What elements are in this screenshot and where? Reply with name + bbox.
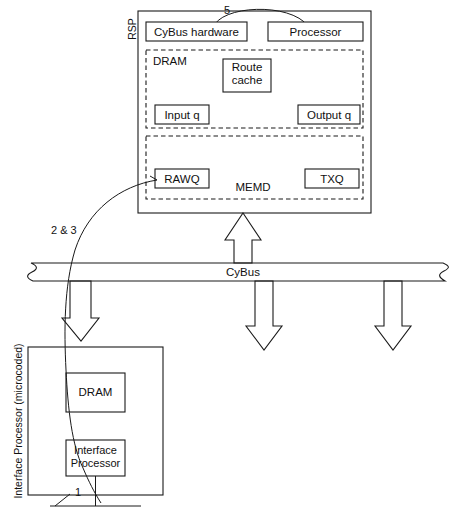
curve-label-2and3: 2 & 3 xyxy=(51,224,77,236)
input-q-label: Input q xyxy=(164,109,199,121)
dram-region-label: DRAM xyxy=(153,55,187,67)
arrow-down-center xyxy=(246,281,282,350)
rawq-label: RAWQ xyxy=(164,173,199,185)
diagram-canvas: RSP 5 CyBus hardware Processor DRAM Rout… xyxy=(0,0,469,520)
ip-processor-label-line1: Interface xyxy=(74,444,117,456)
processor-label: Processor xyxy=(290,26,342,38)
rsp-label: RSP xyxy=(126,18,138,40)
route-cache-label-line1: Route xyxy=(232,61,263,73)
arrow-up-cybus-to-memd xyxy=(225,213,261,263)
route-cache-label-line2: cache xyxy=(232,74,263,86)
txq-label: TXQ xyxy=(320,173,344,185)
ip-processor-label-line2: Processor xyxy=(71,457,121,469)
output-q-label: Output q xyxy=(307,109,351,121)
interface-processor-side-label: Interface Processor (microcoded) xyxy=(12,343,24,498)
block-diagram: RSP 5 CyBus hardware Processor DRAM Rout… xyxy=(0,0,469,520)
pin-1-label: 1 xyxy=(75,486,81,498)
memd-region-label: MEMD xyxy=(235,181,270,193)
cybus-hardware-label: CyBus hardware xyxy=(154,26,239,38)
ip-dram-label: DRAM xyxy=(79,386,113,398)
arrow-down-right xyxy=(375,281,411,350)
arc-label-5: 5 xyxy=(224,4,230,16)
cybus-label: CyBus xyxy=(226,266,260,278)
pin-1-leader xyxy=(55,494,70,506)
